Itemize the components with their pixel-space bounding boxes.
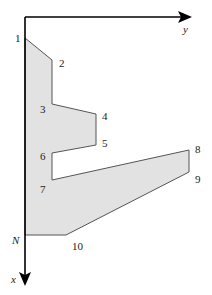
vertex-label-2: 2: [59, 57, 65, 69]
polygon-diagram: y x 1 2 3 4 5 6 7 8 9 10 N: [0, 0, 212, 295]
x-axis-label: x: [10, 273, 16, 285]
vertex-label-10: 10: [72, 240, 84, 252]
vertex-label-4: 4: [102, 110, 108, 122]
vertex-label-1: 1: [15, 32, 21, 44]
vertex-label-7: 7: [40, 183, 46, 195]
vertex-label-N: N: [11, 234, 20, 246]
vertex-label-9: 9: [195, 173, 201, 185]
vertex-label-8: 8: [195, 143, 201, 155]
y-axis-label: y: [182, 23, 188, 35]
vertex-label-5: 5: [102, 137, 108, 149]
vertex-label-3: 3: [40, 103, 46, 115]
vertex-label-6: 6: [40, 150, 46, 162]
